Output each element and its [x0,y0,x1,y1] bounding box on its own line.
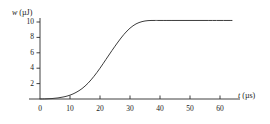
x-tick-label: 60 [210,105,230,113]
x-axis-unit: (µs) [242,91,255,100]
x-tick-label: 0 [30,105,50,113]
x-tick-label: 50 [180,105,200,113]
x-tick-label: 40 [150,105,170,113]
chart-figure: 246810 0102030405060 w (µJ) t (µs) [0,0,270,124]
x-tick-label: 20 [90,105,110,113]
y-tick-label: 10 [12,18,34,26]
y-tick-label: 2 [12,80,34,88]
x-tick-label: 30 [120,105,140,113]
y-tick-label: 8 [12,33,34,41]
data-series-line [40,20,232,99]
x-tick-label: 10 [60,105,80,113]
y-tick-label: 6 [12,49,34,57]
y-axis-unit: (µJ) [19,8,32,17]
x-axis-title: t (µs) [238,92,255,100]
y-tick-label: 4 [12,64,34,72]
x-tick-marks [70,96,220,100]
y-tick-marks [37,22,41,84]
y-axis-title: w (µJ) [12,9,32,17]
